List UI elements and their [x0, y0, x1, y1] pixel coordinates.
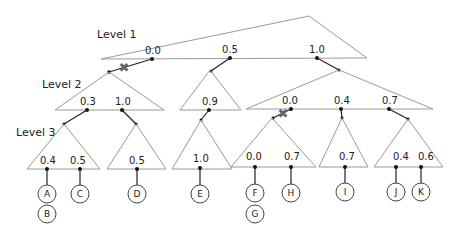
level-2-key: 0.0	[282, 95, 298, 106]
level-3-key: 0.4	[40, 155, 56, 166]
pointer-l1-2	[317, 58, 339, 70]
leaf-C: C	[71, 185, 89, 203]
level-2-label: Level 2	[42, 78, 82, 91]
level-1-key-2: 1.0	[309, 44, 325, 55]
svg-text:H: H	[288, 188, 295, 198]
level-3-key: 0.0	[246, 151, 262, 162]
level-1-label: Level 1	[97, 28, 137, 41]
level-3-key: 0.5	[70, 155, 86, 166]
x-mark-icon: ✖	[119, 60, 130, 75]
index-tree-diagram: Level 1 Level 2 Level 3 0.0 0.5 1.0 ✖ 0.…	[0, 0, 459, 239]
level-3-key: 0.5	[129, 155, 145, 166]
level-3-key: 0.4	[393, 151, 409, 162]
svg-text:J: J	[394, 187, 398, 197]
leaf-J: J	[387, 183, 405, 201]
svg-text:B: B	[44, 209, 50, 219]
leaf-D: D	[128, 185, 146, 203]
leaf-H: H	[282, 184, 300, 202]
level-3-node	[231, 118, 316, 167]
pointer-l1-1	[211, 58, 230, 71]
leaf-G: G	[246, 205, 264, 223]
level-2-key: 0.4	[334, 95, 350, 106]
level-3-label: Level 3	[16, 126, 56, 139]
level-2-key: 0.9	[202, 96, 218, 107]
x-mark-icon: ✖	[278, 106, 289, 121]
leaf-A: A	[38, 185, 56, 203]
svg-text:D: D	[134, 189, 141, 199]
level-2-key: 0.3	[80, 96, 96, 107]
level-3-key: 1.0	[193, 153, 209, 164]
level-3-key: 0.7	[339, 151, 355, 162]
leaf-F: F	[246, 184, 264, 202]
leaf-I: I	[336, 183, 354, 201]
level-1-key-1: 0.5	[222, 44, 238, 55]
level-3-key: 0.7	[284, 151, 300, 162]
svg-text:I: I	[344, 187, 347, 197]
svg-text:A: A	[44, 189, 51, 199]
leaf-B: B	[38, 205, 56, 223]
pointer-l1-0	[109, 59, 152, 72]
leaf-E: E	[191, 185, 209, 203]
svg-text:G: G	[252, 209, 259, 219]
level-1-key-0: 0.0	[145, 45, 161, 56]
svg-text:F: F	[252, 188, 257, 198]
leaf-K: K	[412, 183, 430, 201]
level-2-key: 1.0	[115, 96, 131, 107]
svg-text:C: C	[77, 189, 83, 199]
level-2-key: 0.7	[382, 95, 398, 106]
svg-text:E: E	[197, 189, 203, 199]
level-3-key: 0.6	[418, 151, 434, 162]
